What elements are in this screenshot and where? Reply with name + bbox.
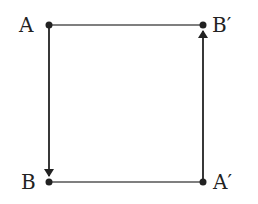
label-a: A (19, 15, 33, 35)
node-aprime-dot (200, 179, 207, 186)
label-bprime: B′ (212, 15, 231, 35)
node-a-dot (46, 22, 53, 29)
node-b-dot (46, 179, 53, 186)
node-bprime-dot (200, 22, 207, 29)
label-aprime: A′ (213, 172, 232, 192)
label-b: B (21, 172, 36, 192)
